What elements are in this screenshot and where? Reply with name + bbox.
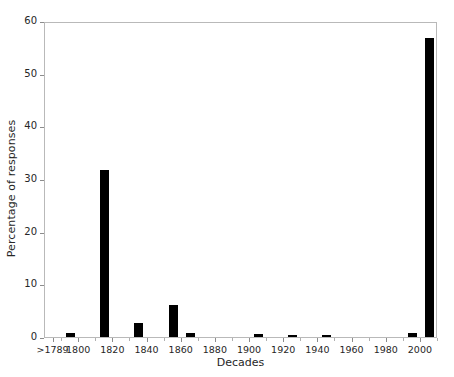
x-tick-label: 1840 — [134, 344, 158, 355]
x-tick-label: 1860 — [169, 344, 193, 355]
x-tick-mark — [249, 338, 250, 342]
x-minor-tick-mark — [266, 338, 267, 341]
x-tick-label: 2000 — [408, 344, 432, 355]
bar — [169, 305, 178, 337]
x-tick-mark — [352, 338, 353, 342]
x-tick-mark — [147, 338, 148, 342]
y-tick-label: 30 — [24, 173, 37, 184]
x-tick-mark — [78, 338, 79, 342]
x-tick-mark — [420, 338, 421, 342]
x-tick-label: 1800 — [66, 344, 90, 355]
bar — [254, 334, 263, 337]
y-tick-label: 10 — [24, 278, 37, 289]
bar — [425, 38, 434, 337]
plot-area — [45, 23, 436, 337]
y-axis-tick: 60 — [0, 22, 44, 23]
x-tick-label: 1980 — [374, 344, 398, 355]
x-minor-tick-mark — [198, 338, 199, 341]
x-minor-tick-mark — [300, 338, 301, 341]
y-tick-label: 50 — [24, 68, 37, 79]
bar — [288, 335, 297, 337]
y-axis-tick: 20 — [0, 233, 44, 234]
x-minor-tick-mark — [334, 338, 335, 341]
x-minor-tick-mark — [129, 338, 130, 341]
x-minor-tick-mark — [164, 338, 165, 341]
x-tick-label: 1880 — [203, 344, 227, 355]
x-tick-mark — [53, 338, 54, 342]
y-tick-label: 20 — [24, 226, 37, 237]
x-minor-tick-mark — [369, 338, 370, 341]
y-tick-label: 40 — [24, 120, 37, 131]
x-tick-label: >1789 — [36, 344, 68, 355]
x-tick-label: 1940 — [305, 344, 329, 355]
x-minor-tick-mark — [403, 338, 404, 341]
chart-figure: Percentage of responses 0102030405060 >1… — [0, 0, 454, 377]
x-tick-mark — [181, 338, 182, 342]
bar — [322, 335, 331, 337]
y-axis-tick: 10 — [0, 285, 44, 286]
y-axis-tick: 50 — [0, 75, 44, 76]
x-tick-label: 1820 — [100, 344, 124, 355]
y-axis-title: Percentage of responses — [0, 0, 22, 377]
bar — [408, 333, 417, 337]
x-minor-tick-mark — [437, 338, 438, 341]
bar — [186, 333, 195, 337]
bar — [134, 323, 143, 337]
x-tick-mark — [112, 338, 113, 342]
bar — [66, 333, 75, 337]
x-minor-tick-mark — [95, 338, 96, 341]
x-tick-mark — [317, 338, 318, 342]
x-tick-label: 1920 — [271, 344, 295, 355]
bar — [100, 170, 109, 337]
x-minor-tick-mark — [61, 338, 62, 341]
x-minor-tick-mark — [232, 338, 233, 341]
y-axis-tick: 40 — [0, 127, 44, 128]
y-tick-mark — [40, 338, 44, 339]
x-tick-label: 1900 — [237, 344, 261, 355]
y-tick-label: 60 — [24, 15, 37, 26]
plot-frame — [44, 22, 437, 338]
x-axis-title: Decades — [44, 356, 437, 369]
y-axis-tick: 30 — [0, 180, 44, 181]
y-axis-tick: 0 — [0, 338, 44, 339]
x-tick-mark — [283, 338, 284, 342]
x-tick-label: 1960 — [339, 344, 363, 355]
x-tick-mark — [386, 338, 387, 342]
x-tick-mark — [215, 338, 216, 342]
y-tick-label: 0 — [31, 331, 37, 342]
